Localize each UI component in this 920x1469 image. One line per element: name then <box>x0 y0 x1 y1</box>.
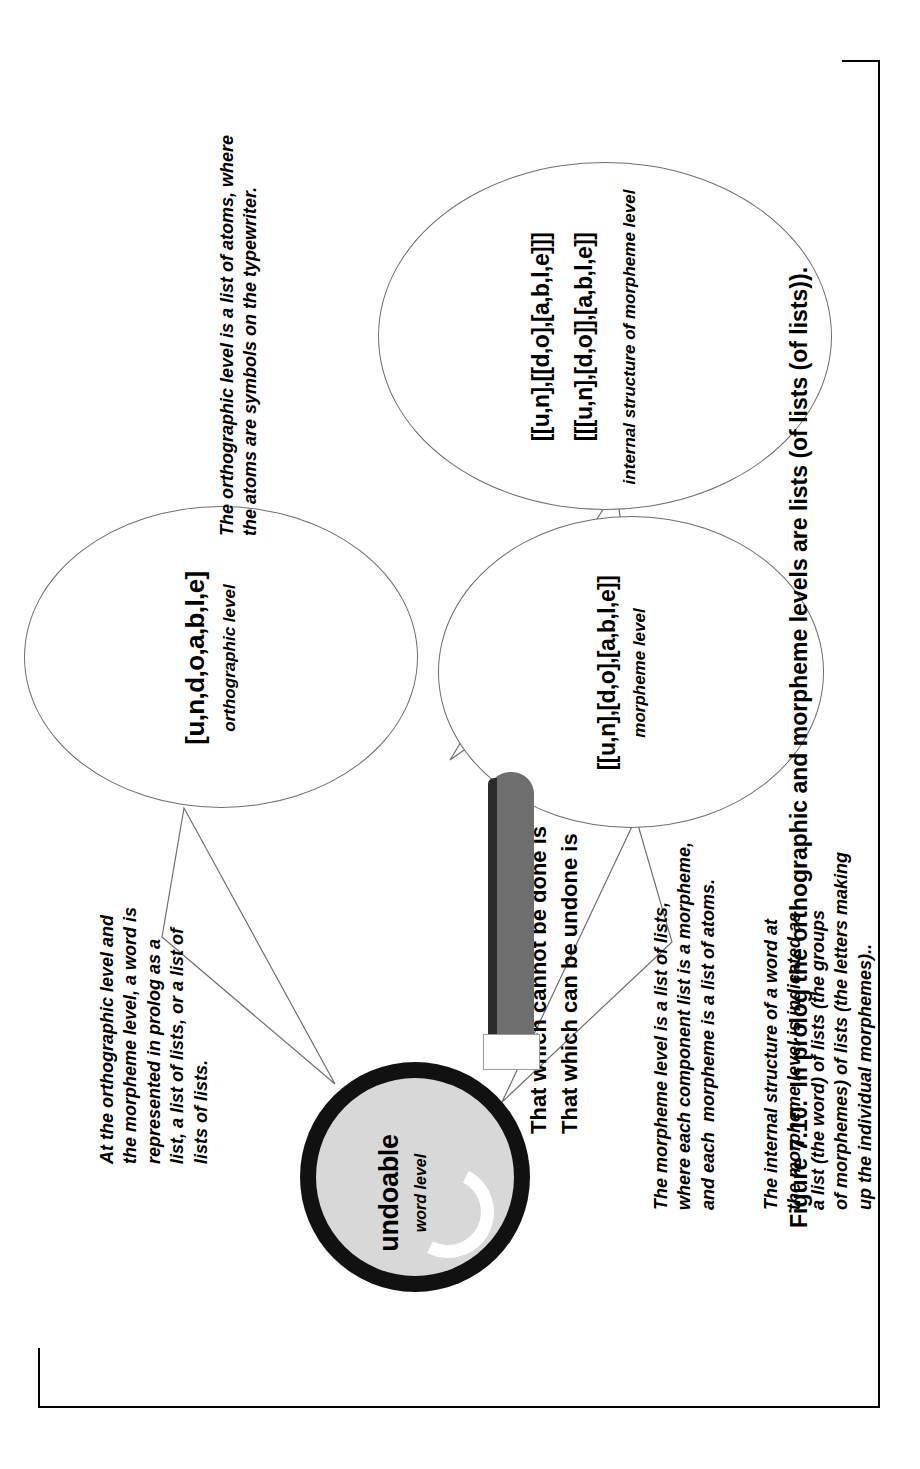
magnifier-handle-highlight <box>488 778 497 1040</box>
internal-code-line-1: [[u,n],[[d,o],[a,b,l,e]]] <box>528 156 555 518</box>
figure-caption: Figure 7.10. In prolog the orthographic … <box>786 108 813 1228</box>
note-morpheme-desc: The morpheme level is a list of lists, w… <box>650 690 720 1210</box>
bubble-morpheme-text: [[u,n],[d,o],[a,b,l,e]] morpheme level <box>594 510 650 836</box>
figure-stage: [u,n,d,o,a,b,l,e] orthographic level [[u… <box>0 0 842 1348</box>
magnifier-level-label: word level <box>412 1094 430 1292</box>
orthographic-label: orthographic level <box>220 508 240 808</box>
bubble-internal-text: [[u,n],[[d,o],[a,b,l,e]]] [[[u,n],[d,o]]… <box>528 156 640 518</box>
figure-page: [u,n,d,o,a,b,l,e] orthographic level [[u… <box>0 0 920 1469</box>
note-top-right: At the orthographic level and the morphe… <box>96 744 213 1164</box>
magnifier-handle-collar <box>483 1034 540 1070</box>
morpheme-code: [[u,n],[d,o],[a,b,l,e]] <box>594 510 621 836</box>
note-internal-desc: The internal structure of a word at the … <box>760 590 877 1210</box>
internal-label: internal structure of morpheme level <box>620 156 640 518</box>
magnifier-word-text: undoable <box>374 1094 405 1292</box>
magnifier-icon: undoable word level <box>300 1062 530 1292</box>
morpheme-label: morpheme level <box>630 510 650 836</box>
internal-code-line-2: [[[u,n],[d,o]],[a,b,l,e]] <box>571 156 598 518</box>
note-orthographic-desc: The orthographic level is a list of atom… <box>216 36 263 536</box>
